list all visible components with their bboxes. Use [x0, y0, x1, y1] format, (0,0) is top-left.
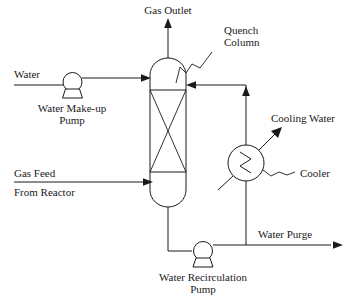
water-recirculation-pump[interactable] — [193, 242, 213, 268]
water-recirculation-pump-label-line2: Pump — [190, 283, 216, 295]
water-recirculation-pump-base — [193, 258, 213, 267]
cooler-leader — [263, 170, 295, 176]
cooler-leader-line — [263, 170, 295, 176]
water-makeup-pump[interactable] — [63, 73, 83, 99]
water-makeup-pump-label-line2: Pump — [59, 114, 85, 126]
column-bottom-outlet[interactable] — [168, 207, 192, 251]
gas-feed-stream[interactable] — [14, 178, 153, 186]
quench-column[interactable] — [150, 58, 186, 207]
cooler-label: Cooler — [300, 167, 330, 179]
cooler[interactable] — [218, 127, 282, 190]
cooling-water-outlet-line — [259, 133, 276, 150]
gas-feed-label-line1: Gas Feed — [14, 167, 56, 179]
recirc-riser-arrowhead — [242, 86, 250, 96]
water-purge-stream[interactable] — [333, 241, 343, 249]
quench-column-label-line2: Column — [224, 36, 260, 48]
gas-outlet-arrowhead — [164, 18, 172, 28]
water-purge-label: Water Purge — [258, 228, 312, 240]
water-makeup-pump-label-line1: Water Make-up — [38, 102, 107, 114]
gas-feed-label-line2: From Reactor — [14, 186, 75, 198]
column-shell — [150, 58, 186, 207]
water-label: Water — [14, 68, 40, 80]
cooling-water-label: Cooling Water — [271, 112, 335, 124]
water-makeup-pump-base — [63, 89, 83, 98]
water-recirculation-pump-label-line1: Water Recirculation — [159, 271, 247, 283]
recirc-inlet-arrowhead — [186, 81, 196, 89]
cooler-body — [228, 145, 264, 181]
water-purge-arrowhead — [333, 241, 343, 249]
pfd-canvas: Gas Outlet Quench Column Water Water Mak… — [0, 0, 361, 301]
quench-column-label-line1: Quench — [224, 24, 259, 36]
gas-outlet-label: Gas Outlet — [144, 4, 191, 16]
cooling-water-inlet-line — [218, 176, 233, 190]
process-flow-diagram: Gas Outlet Quench Column Water Water Mak… — [0, 0, 361, 301]
gas-outlet-stream[interactable] — [164, 18, 172, 58]
